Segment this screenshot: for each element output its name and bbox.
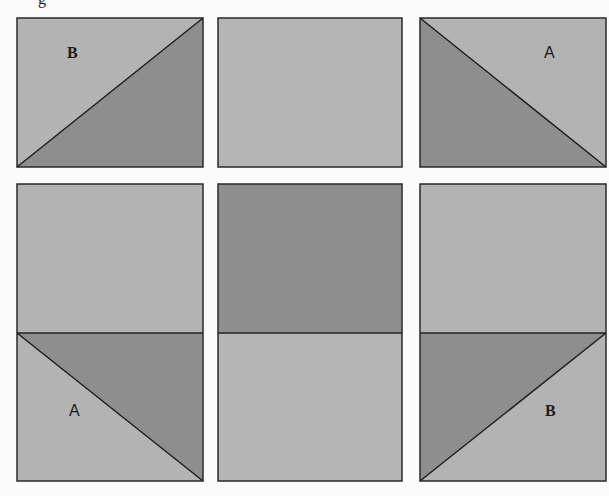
tile-top-left: B [17,18,203,167]
quilt-block-diagram: g B A A [0,0,609,496]
tile-top-center [218,18,402,167]
upper-half-light [420,184,606,333]
label-b: B [67,44,78,61]
tile-bottom-center [218,184,402,481]
tile-bottom-right: B [420,184,606,481]
lower-half-light [218,333,402,481]
tile-background [218,18,402,167]
label-b: B [545,402,556,419]
label-a: A [69,402,80,419]
tile-top-right: A [420,18,606,167]
upper-half-light [17,184,203,333]
upper-half-dark [218,184,402,333]
tile-bottom-left: A [17,184,203,481]
title-fragment: g [38,0,46,8]
label-a: A [544,44,555,61]
